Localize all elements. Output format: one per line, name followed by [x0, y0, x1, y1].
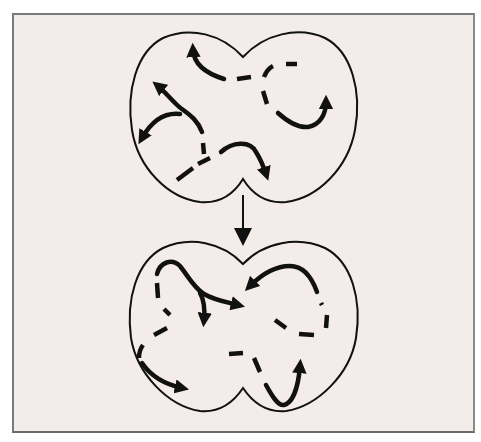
arrow-bottom-upper-left-right: [157, 262, 238, 305]
dash: [275, 320, 286, 328]
arrow-top-upper: [193, 50, 224, 79]
dash: [229, 353, 243, 354]
bottom-cell: [130, 242, 358, 411]
transition-arrow-head: [234, 228, 252, 246]
dash: [164, 309, 170, 315]
dash: [299, 334, 314, 335]
dash: [237, 77, 251, 79]
dash: [254, 358, 260, 372]
top-cell: [130, 32, 357, 202]
arrow-top-left-out: [142, 114, 180, 138]
arrow-bottom-upper-left-down: [200, 293, 204, 320]
arrow-top-right-hook: [278, 102, 326, 127]
dash: [326, 315, 327, 328]
arrow-bottom-upper-right: [250, 266, 317, 292]
dash: [157, 283, 158, 298]
arrow-top-lower: [221, 144, 266, 174]
arrow-bottom-lower-right: [266, 366, 300, 405]
dash: [154, 328, 167, 335]
dash: [321, 303, 322, 305]
dash: [264, 66, 273, 77]
dash: [177, 168, 193, 180]
diagram-canvas: [0, 0, 481, 442]
dash: [139, 345, 143, 358]
bottom-cell-outline: [130, 242, 358, 411]
transition-arrow: [234, 195, 252, 246]
dash: [198, 158, 210, 164]
arrow-top-left-up: [158, 86, 202, 132]
dash: [203, 143, 204, 154]
dash: [263, 91, 267, 104]
